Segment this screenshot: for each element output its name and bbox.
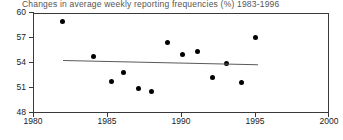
data-point — [165, 40, 170, 45]
data-point — [253, 35, 258, 40]
data-point — [239, 80, 244, 85]
x-tick-label-1990: 1990 — [164, 116, 198, 126]
data-point — [91, 54, 96, 59]
data-point — [121, 70, 126, 75]
chart-title: Changes in average weekly reporting freq… — [22, 0, 279, 9]
y-tick-51 — [29, 87, 34, 88]
axis-top-border — [33, 13, 329, 14]
y-tick-54 — [29, 62, 34, 63]
data-point — [136, 86, 141, 91]
y-tick-label-57: 57 — [2, 32, 26, 42]
data-point — [180, 52, 185, 57]
data-point — [60, 19, 65, 24]
data-point — [149, 89, 154, 94]
x-tick-label-2000: 2000 — [312, 116, 343, 126]
data-point — [210, 75, 215, 80]
data-point — [109, 79, 114, 84]
y-tick-60 — [29, 12, 34, 13]
y-axis-line — [33, 13, 34, 113]
x-tick-label-1980: 1980 — [16, 116, 50, 126]
y-tick-label-60: 60 — [2, 7, 26, 17]
axis-right-border — [328, 13, 329, 113]
y-tick-label-54: 54 — [2, 57, 26, 67]
x-tick-label-1995: 1995 — [238, 116, 272, 126]
y-tick-57 — [29, 37, 34, 38]
y-tick-label-51: 51 — [2, 82, 26, 92]
x-tick-label-1985: 1985 — [90, 116, 124, 126]
data-point — [195, 49, 200, 54]
plot-area — [33, 13, 329, 113]
